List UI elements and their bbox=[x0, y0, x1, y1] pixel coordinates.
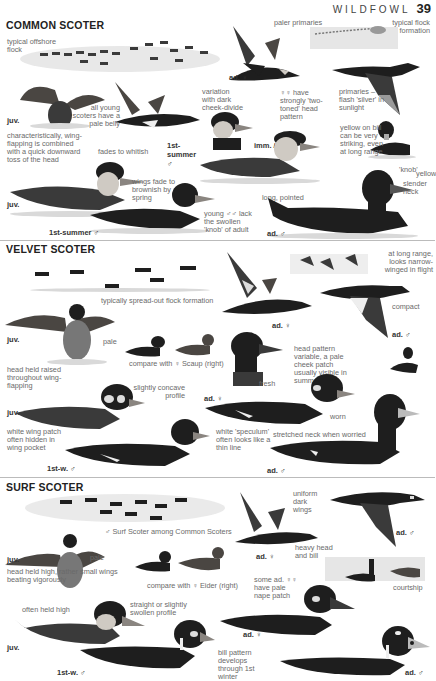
age-surf-female-flight: ad. ♀ bbox=[256, 552, 275, 561]
age-velvet-female-swimming: ad. ♀ bbox=[204, 394, 223, 403]
label-yellow-bill: yellow on bill can be very striking, eve… bbox=[340, 124, 390, 156]
label-typical-flock-formation: typical flock formation bbox=[380, 19, 430, 35]
label-young-males: young ♂♂ lack the swollen 'knob' of adul… bbox=[204, 210, 252, 234]
velvet-1st-winter-male bbox=[65, 420, 210, 470]
page-number: 39 bbox=[417, 1, 431, 16]
section-title-common-scoter: COMMON SCOTER bbox=[6, 19, 104, 31]
label-two-toned: ♀♀ have strongly 'two-toned' head patter… bbox=[280, 89, 328, 121]
label-offshore-flock: typical offshore flock bbox=[7, 38, 67, 54]
age-velvet-1st-winter: 1st-w. ♂ bbox=[47, 464, 76, 473]
age-surf-1st-winter: 1st-w. ♂ bbox=[57, 668, 86, 677]
common-scoter-adult-male bbox=[268, 168, 418, 238]
label-uniform-wings: uniform dark wings bbox=[293, 490, 323, 514]
age-surf-juv-flapping: juv. bbox=[7, 555, 19, 564]
label-concave: slightly concave profile bbox=[120, 384, 185, 400]
surf-among-common-flock bbox=[25, 490, 220, 525]
age-surf-male-flight: ad. ♂ bbox=[396, 528, 415, 537]
label-straight-profile: straight or slightly swollen profile bbox=[130, 601, 190, 617]
surf-juv-flapping bbox=[5, 535, 105, 595]
velvet-juv-flapping bbox=[5, 300, 115, 365]
label-white-patch: white wing patch often hidden in wing po… bbox=[7, 428, 67, 452]
age-surf-ad-male: ad. ♂ bbox=[405, 668, 424, 677]
age-ad-male: ad. ♂ bbox=[267, 229, 286, 238]
section-divider bbox=[0, 240, 435, 241]
age-velvet-juv-flapping: juv. bbox=[7, 335, 19, 344]
velvet-female-flight bbox=[222, 250, 307, 325]
age-surf-female-swimming: ad. ♀ bbox=[243, 630, 262, 639]
age-ad-female: ad. ♀ bbox=[229, 73, 248, 82]
age-velvet-juv-swimming: juv. bbox=[7, 408, 19, 417]
chapter-title: WILDFOWL bbox=[333, 4, 411, 15]
label-spread-flock: typically spread-out flock formation bbox=[101, 297, 213, 305]
age-juv-flapping: juv. bbox=[7, 116, 19, 125]
velvet-flock-illustration bbox=[25, 258, 215, 293]
section-divider bbox=[0, 477, 435, 478]
age-surf-juv-swimming: juv. bbox=[7, 643, 19, 652]
surf-1st-winter-male bbox=[80, 618, 215, 673]
velvet-male-distant bbox=[388, 345, 423, 375]
label-slender-neck: slender neck bbox=[403, 180, 433, 196]
common-scoter-1st-summer-flight bbox=[110, 80, 200, 140]
surf-vs-eider-illustration bbox=[130, 545, 225, 575]
label-speculum: white 'speculum' often looks like a thin… bbox=[216, 428, 271, 452]
label-head-held: head held high, rather small wings beati… bbox=[7, 568, 132, 584]
common-scoter-1st-summer-swimming bbox=[90, 185, 215, 235]
running-header: WILDFOWL39 bbox=[333, 1, 431, 16]
velvet-adult-male bbox=[270, 390, 420, 470]
label-long-range: at long range, looks narrow-winged in fl… bbox=[375, 250, 433, 274]
section-title-velvet-scoter: VELVET SCOTER bbox=[6, 243, 95, 255]
age-velvet-male-flight: ad. ♂ bbox=[392, 330, 411, 339]
age-juv-swimming: juv. bbox=[7, 200, 19, 209]
label-surf-pale: pale bbox=[90, 554, 104, 562]
label-compare-scaup: compare with ♀ Scaup (right) bbox=[129, 360, 224, 368]
surf-male-flight bbox=[330, 485, 425, 555]
surf-courtship-illustration bbox=[325, 555, 425, 585]
label-yellow: yellow bbox=[416, 170, 436, 178]
label-courtship: courtship bbox=[393, 584, 423, 592]
label-compact: compact bbox=[392, 303, 420, 311]
age-1st-summer-swimming: 1st-summer ♂ bbox=[49, 228, 99, 237]
age-velvet-female-flight: ad. ♀ bbox=[272, 321, 291, 330]
label-pale: pale bbox=[103, 338, 117, 346]
age-1st-summer-flight: 1st-summer ♂ bbox=[167, 141, 199, 168]
label-primaries-flash: primaries – flash 'silver' in sunlight bbox=[339, 88, 389, 112]
label-fades-whitish: fades to whitish bbox=[98, 148, 148, 156]
label-often-high: often held high bbox=[22, 606, 70, 614]
velvet-vs-scaup-illustration bbox=[120, 330, 220, 360]
label-bill-pattern: bill pattern develops through 1st winter bbox=[218, 649, 268, 681]
age-velvet-ad-male: ad. ♂ bbox=[267, 466, 286, 475]
label-among-common: ♂ Surf Scoter among Common Scoters bbox=[105, 528, 232, 536]
